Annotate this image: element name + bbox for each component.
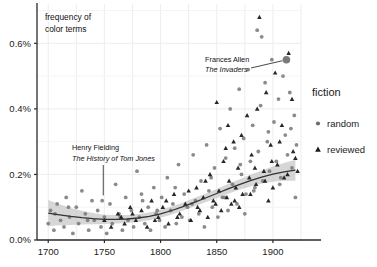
data-point-reviewed: [253, 166, 258, 170]
data-point-reviewed: [291, 149, 296, 153]
data-point-random: [209, 176, 213, 180]
data-point-random: [243, 212, 247, 216]
data-point-random: [226, 209, 230, 213]
annotation-label-henry-fielding: Henry Fielding: [72, 143, 119, 152]
data-point-random: [244, 192, 248, 196]
data-point-random: [158, 218, 162, 222]
inplot-axis-title-line: frequency of: [45, 12, 92, 22]
legend-label: random: [327, 118, 359, 129]
data-point-random: [238, 163, 242, 167]
data-point-random: [256, 150, 260, 154]
x-tick-label: 1700: [38, 246, 59, 257]
data-point-reviewed: [139, 208, 144, 212]
data-point-random: [160, 196, 164, 200]
confidence-band: [48, 160, 295, 227]
inplot-axis-title-line: color terms: [45, 24, 86, 34]
data-point-random: [163, 225, 167, 229]
data-point-random: [67, 205, 71, 209]
data-point-random: [99, 225, 103, 229]
highlighted-point-frances-allen: [283, 56, 291, 64]
data-point-random: [180, 215, 184, 219]
data-point-random: [255, 28, 259, 32]
data-point-random: [259, 104, 263, 108]
data-point-reviewed: [224, 146, 229, 150]
data-point-random: [87, 228, 91, 232]
data-point-random: [52, 228, 56, 232]
y-tick-label: 0.6%: [9, 38, 31, 49]
data-point-reviewed: [266, 198, 271, 202]
data-point-random: [213, 166, 217, 170]
data-point-random: [210, 205, 214, 209]
data-point-reviewed: [273, 70, 278, 74]
data-point-reviewed: [194, 185, 199, 189]
data-point-random: [290, 166, 294, 170]
data-point-random: [49, 209, 53, 213]
data-point-random: [197, 212, 201, 216]
data-point-reviewed: [290, 97, 295, 101]
data-point-random: [124, 196, 128, 200]
data-point-random: [182, 192, 186, 196]
data-point-random: [288, 91, 292, 95]
data-point-random: [64, 196, 68, 200]
data-point-random: [132, 225, 136, 229]
data-point-random: [251, 123, 255, 127]
annotation-leader-frances-allen: [251, 61, 282, 68]
data-point-reviewed: [280, 123, 285, 127]
data-point-random: [237, 87, 241, 91]
data-point-reviewed: [149, 198, 154, 202]
y-tick-label: 0.2%: [9, 169, 31, 180]
data-point-reviewed: [245, 113, 250, 117]
x-tick-label: 1800: [150, 246, 171, 257]
data-point-reviewed: [268, 143, 273, 147]
data-point-reviewed: [295, 169, 300, 173]
data-point-random: [149, 228, 153, 232]
data-point-random: [205, 143, 209, 147]
data-point-random: [135, 169, 139, 173]
data-point-random: [281, 74, 285, 78]
data-point-random: [62, 225, 66, 229]
data-point-random: [199, 179, 203, 183]
data-point-random: [249, 159, 253, 163]
data-point-reviewed: [257, 15, 262, 19]
data-point-random: [231, 182, 235, 186]
data-point-random: [100, 199, 104, 203]
data-point-reviewed: [226, 123, 231, 127]
data-point-random: [155, 209, 159, 213]
data-point-reviewed: [232, 198, 237, 202]
trend-confidence-band: [48, 160, 295, 227]
data-point-random: [121, 228, 125, 232]
gridlines: [37, 4, 301, 240]
data-point-random: [295, 143, 299, 147]
data-point-random: [152, 186, 156, 190]
data-point-random: [83, 212, 87, 216]
data-point-random: [278, 182, 282, 186]
data-point-random: [173, 186, 177, 190]
data-point-reviewed: [172, 192, 177, 196]
data-points: [46, 15, 300, 236]
data-point-reviewed: [203, 179, 208, 183]
data-point-random: [292, 114, 296, 118]
data-point-reviewed: [164, 198, 169, 202]
legend-marker-reviewed: [315, 147, 321, 152]
data-point-reviewed: [219, 208, 224, 212]
chart-root: 0.0%0.2%0.4%0.6%17001750180018501900 Fra…: [0, 0, 377, 267]
data-point-reviewed: [215, 100, 220, 104]
data-point-random: [105, 232, 109, 236]
data-point-reviewed: [286, 51, 291, 55]
legend-marker-random: [316, 121, 320, 125]
data-point-random: [174, 222, 178, 226]
data-point-random: [242, 137, 246, 141]
legend: fictionrandomreviewed: [312, 86, 365, 155]
annotation-label-frances-allen: Frances Allen: [205, 55, 249, 64]
data-point-reviewed: [239, 133, 244, 137]
data-point-random: [294, 196, 298, 200]
annotation-title-tom-jones: The History of Tom Jones: [72, 154, 155, 163]
data-point-random: [268, 169, 272, 173]
data-point-random: [216, 215, 220, 219]
data-point-random: [233, 146, 237, 150]
data-point-random: [286, 153, 290, 157]
data-point-reviewed: [186, 188, 191, 192]
data-point-reviewed: [206, 215, 211, 219]
data-point-random: [203, 225, 207, 229]
scatter-chart: 0.0%0.2%0.4%0.6%17001750180018501900 Fra…: [0, 0, 377, 267]
